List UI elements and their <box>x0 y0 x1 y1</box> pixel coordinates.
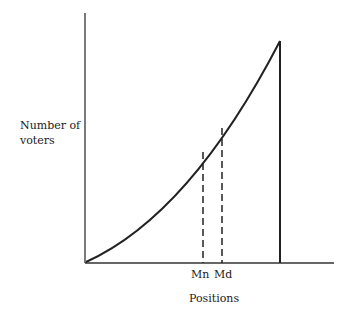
median-label: Md <box>214 268 232 282</box>
y-axis-label-line2: voters <box>20 134 55 148</box>
y-axis-label-line1: Number of <box>20 119 80 133</box>
plot-area <box>0 0 354 312</box>
distribution-curve <box>86 41 280 262</box>
mean-label: Mn <box>191 268 209 282</box>
x-axis-label: Positions <box>189 292 239 306</box>
diagram: Number of voters Mn Md Positions <box>0 0 354 312</box>
